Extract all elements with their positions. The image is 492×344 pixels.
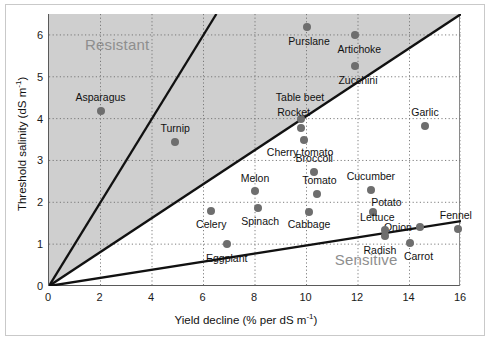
data-point [305, 208, 313, 216]
point-label: Garlic [411, 107, 438, 118]
point-label: Cabbage [288, 219, 331, 230]
point-label: Carrot [404, 250, 433, 261]
y-tick-label: 6 [30, 29, 43, 40]
data-point [406, 239, 414, 247]
data-point [421, 122, 429, 130]
point-label: Asparagus [75, 92, 125, 103]
data-point [207, 207, 215, 215]
x-tick-label: 2 [96, 292, 102, 303]
point-label: Potato [371, 197, 401, 208]
y-tick-label: 1 [30, 239, 43, 250]
point-label: Artichoke [337, 43, 381, 54]
data-point [303, 23, 311, 31]
x-tick-label: 4 [148, 292, 154, 303]
data-point [454, 225, 462, 233]
point-label: Purslane [288, 36, 329, 47]
y-tick-label: 0 [30, 281, 43, 292]
x-tick-label: 16 [454, 292, 466, 303]
x-axis-title-sup: -1 [306, 312, 313, 321]
point-label: Lettuce [360, 212, 394, 223]
point-label: Eggplant [206, 252, 247, 263]
x-tick-label: 14 [402, 292, 414, 303]
data-point [251, 187, 259, 195]
data-point [97, 107, 105, 115]
x-axis-title: Yield decline (% per dS m-1) [0, 312, 492, 326]
point-label: Radish [364, 244, 397, 255]
y-axis-title-text: Threshold salinity (dS m [16, 88, 28, 211]
figure-container: Threshold salinity (dS m-1) Yield declin… [0, 0, 492, 344]
x-tick-label: 0 [45, 292, 51, 303]
y-axis-title-tail: ) [16, 77, 28, 81]
x-axis-title-tail: ) [314, 314, 318, 326]
point-label: Fennel [440, 209, 472, 220]
y-tick-label: 3 [30, 155, 43, 166]
y-axis-title-sup: -1 [14, 81, 23, 88]
y-tick-label: 5 [30, 71, 43, 82]
zone-label-resistant: Resistant [85, 36, 149, 53]
point-label: Spinach [241, 215, 279, 226]
data-point [416, 223, 424, 231]
point-label: Celery [196, 219, 226, 230]
point-label: Tomato [302, 175, 336, 186]
data-point [351, 31, 359, 39]
data-point [367, 186, 375, 194]
x-axis-title-text: Yield decline (% per dS m [175, 314, 307, 326]
data-point [297, 124, 305, 132]
x-tick-label: 6 [199, 292, 205, 303]
data-point [381, 232, 389, 240]
x-tick-label: 12 [351, 292, 363, 303]
y-axis-title: Threshold salinity (dS m-1) [14, 19, 28, 269]
y-tick-label: 4 [30, 113, 43, 124]
point-label: Broccoli [296, 153, 333, 164]
point-label: Rocket [277, 106, 310, 117]
point-label: Table beet [276, 91, 324, 102]
x-tick-label: 8 [251, 292, 257, 303]
data-point [313, 190, 321, 198]
point-label: Zucchini [338, 75, 377, 86]
plot-canvas [49, 14, 461, 286]
point-label: Turnip [160, 122, 189, 133]
data-point [300, 136, 308, 144]
data-point [254, 204, 262, 212]
point-label: Cucumber [347, 170, 395, 181]
data-point [223, 240, 231, 248]
data-point [171, 138, 179, 146]
data-point [351, 62, 359, 70]
y-tick-label: 2 [30, 197, 43, 208]
plot-area: ResistantSensitiveAsparagusTurnipPurslan… [48, 14, 460, 286]
point-label: Melon [241, 172, 270, 183]
x-tick-label: 10 [299, 292, 311, 303]
